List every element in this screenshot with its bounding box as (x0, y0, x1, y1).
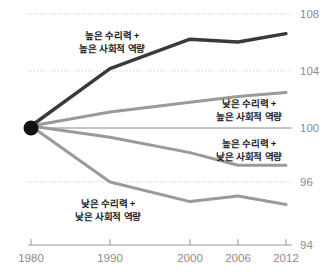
x-tick-label-2000: 2000 (177, 252, 203, 264)
x-tick-label-2012: 2012 (273, 252, 299, 264)
anno-line-2: 높은 사회적 역량 (196, 111, 302, 124)
x-tick-label-1990: 1990 (97, 252, 123, 264)
anno-line-1: 낮은 수리력 + (53, 198, 163, 211)
y-tick-label-108: 108 (300, 8, 319, 20)
y-tick-label-104: 104 (300, 65, 320, 77)
x-tick-label-1980: 1980 (18, 252, 44, 264)
anno-line-2: 높은 사회적 역량 (52, 43, 172, 56)
origin-marker-dot (24, 121, 39, 136)
y-axis-labels: 108 104 100 96 94 (300, 8, 320, 251)
anno-high-numeracy-high-social: 높은 수리력 + 높은 사회적 역량 (52, 30, 172, 55)
anno-line-2: 낮은 사회적 역량 (53, 211, 163, 224)
anno-line-2: 낮은 사회적 역량 (196, 151, 302, 164)
y-tick-label-100: 100 (300, 122, 319, 134)
y-tick-label-96: 96 (300, 176, 313, 188)
anno-high-numeracy-low-social: 높은 수리력 + 낮은 사회적 역량 (196, 138, 302, 163)
numeracy-social-skills-line-chart: 108 104 100 96 94 1980 1990 2000 2006 20… (0, 0, 329, 275)
x-tick-label-2006: 2006 (225, 252, 251, 264)
anno-line-1: 높은 수리력 + (52, 30, 172, 43)
anno-low-numeracy-high-social: 낮은 수리력 + 높은 사회적 역량 (196, 98, 302, 123)
anno-line-1: 높은 수리력 + (196, 138, 302, 151)
y-tick-label-94: 94 (300, 239, 313, 251)
x-axis-labels: 1980 1990 2000 2006 2012 (18, 252, 299, 264)
x-axis (28, 239, 292, 245)
anno-low-numeracy-low-social: 낮은 수리력 + 낮은 사회적 역량 (53, 198, 163, 223)
anno-line-1: 낮은 수리력 + (196, 98, 302, 111)
